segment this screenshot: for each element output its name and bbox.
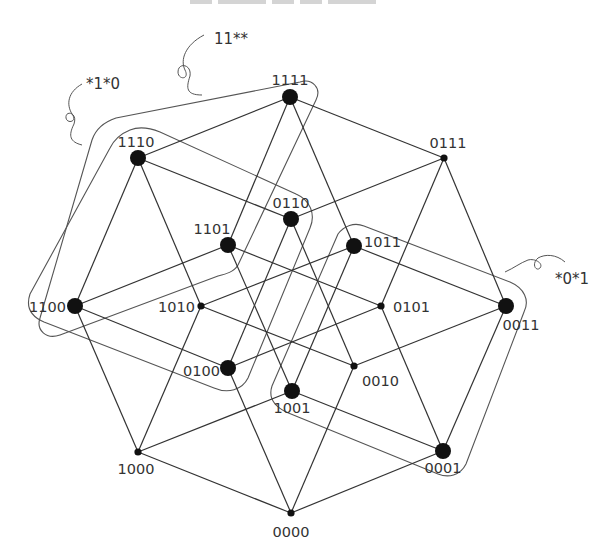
vertex-label-1101: 1101 (194, 221, 231, 237)
vertex-label-1100: 1100 (29, 299, 66, 315)
vertex-1101 (220, 237, 236, 253)
vertex-1100 (67, 298, 83, 314)
group-label-x1x0: *1*0 (86, 75, 120, 93)
edge-0110-0111 (291, 158, 444, 219)
group-label-x0x1: *0*1 (555, 270, 589, 288)
vertex-1110 (130, 150, 146, 166)
vertex-0010 (350, 362, 357, 369)
edge-1000-1001 (138, 391, 292, 452)
edge-1101-1111 (228, 97, 290, 245)
node-labels: 0000100001000010000111001010100101100101… (29, 72, 539, 540)
vertex-label-0100: 0100 (183, 363, 220, 379)
leader-line-x1x0 (66, 84, 82, 145)
edge-1100-1110 (75, 158, 138, 306)
vertex-0000 (287, 509, 294, 516)
edge-0101-0111 (381, 158, 444, 306)
edge-0001-1001 (292, 391, 443, 451)
edge-0111-1111 (290, 97, 444, 158)
vertex-label-1111: 1111 (272, 72, 309, 88)
edge-0110-1110 (138, 158, 291, 219)
vertex-label-1010: 1010 (158, 299, 195, 315)
vertex-label-0101: 0101 (393, 299, 430, 315)
vertex-1001 (284, 383, 300, 399)
vertex-0001 (435, 443, 451, 459)
vertex-0101 (377, 302, 384, 309)
vertex-1010 (197, 302, 204, 309)
vertex-1111 (282, 89, 298, 105)
vertex-label-0001: 0001 (425, 460, 462, 476)
vertex-label-1000: 1000 (118, 461, 155, 477)
vertex-0111 (440, 154, 447, 161)
vertex-label-1110: 1110 (118, 134, 155, 150)
vertex-label-0010: 0010 (362, 373, 399, 389)
vertex-label-1001: 1001 (274, 400, 311, 416)
vertex-label-1011: 1011 (364, 234, 401, 250)
edge-1010-1011 (201, 246, 354, 306)
vertex-0110 (283, 211, 299, 227)
edge-1110-1111 (138, 97, 290, 158)
vertex-label-0011: 0011 (503, 317, 540, 333)
edge-1100-1101 (75, 245, 228, 306)
edge-0011-0111 (444, 158, 506, 306)
edge-0010-0110 (291, 219, 354, 366)
vertex-label-0111: 0111 (430, 135, 467, 151)
edge-0100-0101 (228, 306, 381, 368)
hypercube-graph: 0000100001000010000111001010100101100101… (0, 0, 606, 550)
vertex-label-0110: 0110 (273, 195, 310, 211)
vertex-1000 (134, 448, 141, 455)
group-label-11xx: 11** (214, 30, 249, 48)
edge-1010-1110 (138, 158, 201, 306)
clipped-title-strip (190, 0, 420, 5)
hypercube-diagram: 0000100001000010000111001010100101100101… (0, 0, 606, 550)
group-labels: 11***1*0*0*1 (86, 30, 589, 288)
edge-0100-0110 (228, 219, 291, 368)
vertex-0100 (220, 360, 236, 376)
vertex-0011 (498, 298, 514, 314)
vertex-1011 (346, 238, 362, 254)
leader-line-11xx (178, 35, 204, 95)
vertex-label-0000: 0000 (273, 524, 310, 540)
edge-0011-1011 (354, 246, 506, 306)
edge-1011-1111 (290, 97, 354, 246)
